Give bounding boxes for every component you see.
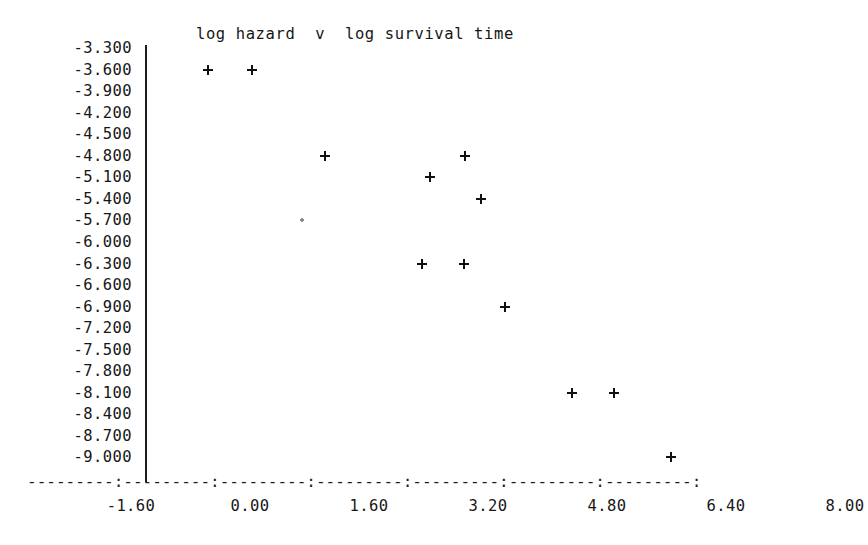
- plus-marker-horizontal: [666, 456, 676, 458]
- data-point-marker: [319, 150, 331, 162]
- plus-marker-horizontal: [247, 69, 257, 71]
- data-point-marker: [424, 171, 436, 183]
- plus-marker-horizontal: [567, 392, 577, 394]
- data-point-marker: [459, 150, 471, 162]
- plus-marker-horizontal: [609, 392, 619, 394]
- data-point-marker: [499, 301, 511, 313]
- data-point-marker: [566, 387, 578, 399]
- data-point-marker: [416, 258, 428, 270]
- plus-marker-horizontal: [203, 69, 213, 71]
- plus-marker-horizontal: [320, 155, 330, 157]
- plus-marker-horizontal: [425, 176, 435, 178]
- data-point-marker: [475, 193, 487, 205]
- plus-marker-horizontal: [417, 263, 427, 265]
- plus-marker-horizontal: [476, 198, 486, 200]
- data-point-marker: [246, 64, 258, 76]
- plus-marker-horizontal: [460, 155, 470, 157]
- data-point-marker: [458, 258, 470, 270]
- data-point-marker: [296, 214, 308, 226]
- data-point-marker: [665, 451, 677, 463]
- plus-marker-horizontal: [459, 263, 469, 265]
- plus-marker-horizontal: [500, 306, 510, 308]
- data-point-marker: [202, 64, 214, 76]
- plus-marker-horizontal: [300, 219, 304, 221]
- data-point-marker: [608, 387, 620, 399]
